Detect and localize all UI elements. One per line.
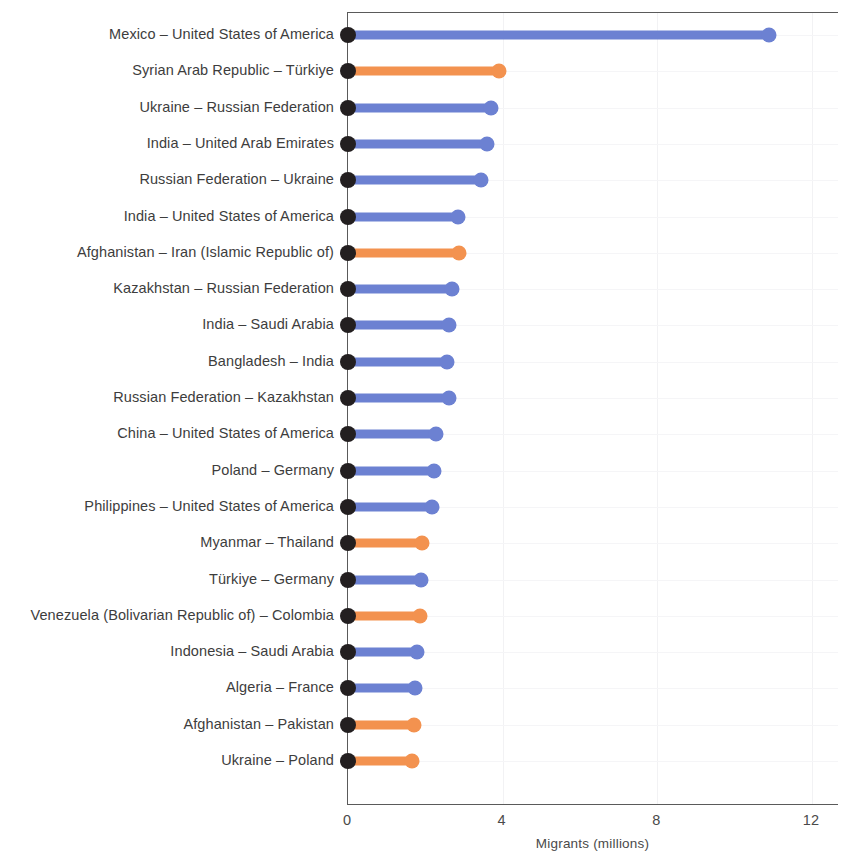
lollipop-origin-dot bbox=[340, 136, 356, 152]
lollipop-origin-dot bbox=[340, 535, 356, 551]
lollipop-value-dot[interactable] bbox=[452, 245, 467, 260]
lollipop-value-dot[interactable] bbox=[445, 282, 460, 297]
gridline-vertical bbox=[503, 13, 504, 804]
lollipop-value-dot[interactable] bbox=[474, 173, 489, 188]
lollipop-stem bbox=[348, 611, 420, 620]
lollipop-stem bbox=[348, 720, 414, 729]
lollipop-origin-dot bbox=[340, 499, 356, 515]
lollipop-stem bbox=[348, 321, 449, 330]
y-axis-tick-label: Philippines – United States of America bbox=[84, 498, 334, 514]
lollipop-stem bbox=[348, 140, 487, 149]
lollipop-stem bbox=[348, 67, 499, 76]
plot-area bbox=[347, 12, 838, 805]
lollipop-value-dot[interactable] bbox=[429, 427, 444, 442]
lollipop-stem bbox=[348, 684, 415, 693]
lollipop-origin-dot bbox=[340, 644, 356, 660]
lollipop-origin-dot bbox=[340, 281, 356, 297]
lollipop-origin-dot bbox=[340, 572, 356, 588]
lollipop-value-dot[interactable] bbox=[441, 391, 456, 406]
lollipop-stem bbox=[348, 757, 412, 766]
lollipop-stem bbox=[348, 466, 434, 475]
lollipop-chart: Mexico – United States of AmericaSyrian … bbox=[0, 0, 844, 857]
lollipop-stem bbox=[348, 176, 481, 185]
lollipop-value-dot[interactable] bbox=[414, 572, 429, 587]
lollipop-stem bbox=[348, 31, 769, 40]
y-axis-tick-label: India – United Arab Emirates bbox=[147, 135, 334, 151]
lollipop-origin-dot bbox=[340, 680, 356, 696]
lollipop-value-dot[interactable] bbox=[484, 100, 499, 115]
x-axis-tick-label: 0 bbox=[343, 812, 351, 828]
lollipop-stem bbox=[348, 285, 452, 294]
lollipop-value-dot[interactable] bbox=[415, 536, 430, 551]
gridline-vertical bbox=[812, 13, 813, 804]
y-axis-tick-label: Afghanistan – Pakistan bbox=[183, 716, 334, 732]
lollipop-stem bbox=[348, 430, 436, 439]
x-axis-tick-label: 4 bbox=[498, 812, 506, 828]
y-axis-tick-label: Afghanistan – Iran (Islamic Republic of) bbox=[77, 244, 334, 260]
y-axis-labels: Mexico – United States of AmericaSyrian … bbox=[0, 12, 334, 805]
y-axis-tick-label: China – United States of America bbox=[117, 425, 334, 441]
lollipop-origin-dot bbox=[340, 426, 356, 442]
y-axis-tick-label: Venezuela (Bolivarian Republic of) – Col… bbox=[30, 607, 334, 623]
y-axis-tick-label: Syrian Arab Republic – Türkiye bbox=[132, 62, 334, 78]
y-axis-tick-label: Russian Federation – Kazakhstan bbox=[113, 389, 334, 405]
lollipop-origin-dot bbox=[340, 100, 356, 116]
lollipop-origin-dot bbox=[340, 717, 356, 733]
lollipop-value-dot[interactable] bbox=[407, 717, 422, 732]
lollipop-value-dot[interactable] bbox=[425, 499, 440, 514]
lollipop-value-dot[interactable] bbox=[480, 137, 495, 152]
lollipop-value-dot[interactable] bbox=[408, 681, 423, 696]
y-axis-tick-label: Bangladesh – India bbox=[208, 353, 334, 369]
lollipop-stem bbox=[348, 212, 458, 221]
lollipop-origin-dot bbox=[340, 172, 356, 188]
lollipop-value-dot[interactable] bbox=[413, 608, 428, 623]
y-axis-tick-label: India – Saudi Arabia bbox=[202, 316, 334, 332]
lollipop-origin-dot bbox=[340, 27, 356, 43]
x-axis-title: Migrants (millions) bbox=[347, 836, 838, 851]
lollipop-value-dot[interactable] bbox=[451, 209, 466, 224]
lollipop-stem bbox=[348, 502, 432, 511]
y-axis-tick-label: Algeria – France bbox=[226, 679, 334, 695]
x-axis-tick-label: 12 bbox=[803, 812, 819, 828]
lollipop-origin-dot bbox=[340, 209, 356, 225]
lollipop-value-dot[interactable] bbox=[410, 645, 425, 660]
x-axis-tick-label: 8 bbox=[652, 812, 660, 828]
gridline-vertical bbox=[657, 13, 658, 804]
lollipop-origin-dot bbox=[340, 753, 356, 769]
lollipop-stem bbox=[348, 103, 491, 112]
lollipop-value-dot[interactable] bbox=[427, 463, 442, 478]
lollipop-origin-dot bbox=[340, 608, 356, 624]
lollipop-origin-dot bbox=[340, 354, 356, 370]
y-axis-tick-label: Kazakhstan – Russian Federation bbox=[113, 280, 334, 296]
lollipop-stem bbox=[348, 248, 459, 257]
y-axis-tick-label: Türkiye – Germany bbox=[209, 571, 334, 587]
lollipop-stem bbox=[348, 575, 421, 584]
y-axis-tick-label: Russian Federation – Ukraine bbox=[139, 171, 334, 187]
lollipop-value-dot[interactable] bbox=[405, 754, 420, 769]
y-axis-tick-label: Ukraine – Poland bbox=[221, 752, 334, 768]
lollipop-origin-dot bbox=[340, 63, 356, 79]
lollipop-value-dot[interactable] bbox=[439, 354, 454, 369]
y-axis-tick-label: Indonesia – Saudi Arabia bbox=[170, 643, 334, 659]
lollipop-origin-dot bbox=[340, 317, 356, 333]
y-axis-tick-label: Poland – Germany bbox=[212, 462, 335, 478]
lollipop-stem bbox=[348, 539, 422, 548]
y-axis-tick-label: India – United States of America bbox=[124, 208, 334, 224]
lollipop-origin-dot bbox=[340, 245, 356, 261]
lollipop-stem bbox=[348, 394, 449, 403]
y-axis-tick-label: Myanmar – Thailand bbox=[200, 534, 334, 550]
lollipop-stem bbox=[348, 648, 417, 657]
lollipop-origin-dot bbox=[340, 463, 356, 479]
lollipop-stem bbox=[348, 357, 447, 366]
y-axis-tick-label: Ukraine – Russian Federation bbox=[139, 99, 334, 115]
lollipop-value-dot[interactable] bbox=[441, 318, 456, 333]
lollipop-value-dot[interactable] bbox=[762, 28, 777, 43]
lollipop-value-dot[interactable] bbox=[491, 64, 506, 79]
lollipop-origin-dot bbox=[340, 390, 356, 406]
y-axis-tick-label: Mexico – United States of America bbox=[109, 26, 334, 42]
gridline-horizontal bbox=[348, 761, 838, 762]
